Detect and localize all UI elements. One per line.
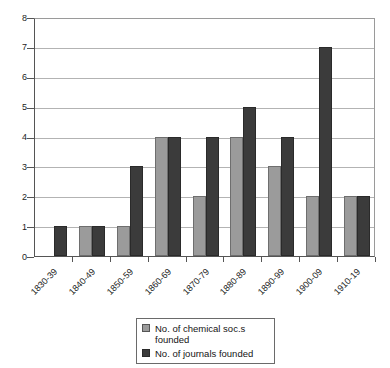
bar-chart: 012345678 1830-391840-491850-591860-6918… — [0, 0, 390, 368]
y-axis-tick — [27, 48, 34, 49]
legend-label: No. of journals founded — [155, 348, 253, 359]
y-axis-label: 1 — [5, 223, 27, 232]
x-axis-tick — [72, 257, 73, 262]
y-axis-label: 6 — [5, 73, 27, 82]
y-axis-label: 4 — [5, 133, 27, 142]
legend-item-journals: No. of journals founded — [142, 348, 269, 359]
y-axis-label: 0 — [5, 253, 27, 262]
gray-swatch-icon — [142, 324, 150, 332]
y-axis-label: 2 — [5, 193, 27, 202]
x-axis-tick — [337, 257, 338, 262]
bar — [357, 196, 370, 256]
y-axis-label: 5 — [5, 103, 27, 112]
y-axis-tick — [27, 167, 34, 168]
legend-item-chemical-societies: No. of chemical soc.s founded — [142, 323, 269, 345]
y-axis-label: 7 — [5, 43, 27, 52]
y-axis-tick — [27, 138, 34, 139]
y-axis-tick — [27, 257, 34, 258]
chart-legend: No. of chemical soc.s founded No. of jou… — [136, 318, 275, 364]
y-axis-tick — [27, 108, 34, 109]
x-axis-tick — [110, 257, 111, 262]
y-axis-tick — [27, 78, 34, 79]
y-axis-tick — [27, 18, 34, 19]
x-axis-tick — [148, 257, 149, 262]
x-axis-tick — [299, 257, 300, 262]
y-axis-tick — [27, 197, 34, 198]
dark-swatch-icon — [142, 349, 150, 357]
x-axis-tick — [223, 257, 224, 262]
bar-group — [35, 19, 374, 256]
legend-label: No. of chemical soc.s founded — [155, 323, 269, 345]
x-axis-tick — [261, 257, 262, 262]
plot-area — [34, 18, 375, 257]
x-axis-tick — [186, 257, 187, 262]
y-axis-tick — [27, 227, 34, 228]
y-axis-label: 8 — [5, 14, 27, 23]
bar — [344, 196, 357, 256]
x-axis-tick — [375, 257, 376, 262]
y-axis-label: 3 — [5, 163, 27, 172]
